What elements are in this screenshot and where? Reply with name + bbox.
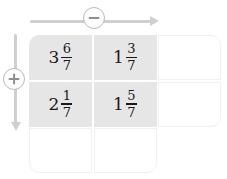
mixed-number-r0c1: 1 3 7 [113,42,137,72]
table-cell-r1c1[interactable]: 1 5 7 [94,82,157,127]
fraction-part: 1 7 [61,89,72,119]
table-cell-r1c0[interactable]: 2 1 7 [29,82,92,127]
mixed-number-r1c1: 1 5 7 [113,89,137,119]
table-cell-r2c0[interactable] [29,128,92,173]
fraction-part: 5 7 [126,89,137,119]
denominator: 7 [62,106,72,120]
table-cell-r1c2[interactable] [158,82,221,127]
whole-part: 2 [49,96,60,113]
vertical-arrowhead-icon [11,122,21,131]
numerator: 3 [126,42,136,56]
denominator: 7 [126,106,136,120]
whole-part: 1 [113,49,124,66]
table-cell-r0c2[interactable] [158,35,221,80]
circled-plus-icon[interactable] [3,68,25,90]
mixed-number-r0c0: 3 6 7 [49,42,73,72]
table-cell-r0c0[interactable]: 3 6 7 [29,35,92,80]
fraction-part: 3 7 [126,42,137,72]
circled-minus-icon[interactable] [83,7,105,29]
horizontal-arrowhead-icon [150,16,159,26]
fraction-grid-widget: 3 6 7 1 3 7 2 [0,0,227,179]
plus-stroke-vertical [13,74,15,85]
minus-stroke [89,17,100,19]
numerator: 1 [62,89,72,103]
whole-part: 1 [113,96,124,113]
numerator: 5 [126,89,136,103]
mixed-number-r1c0: 2 1 7 [49,89,73,119]
table-cell-r0c1[interactable]: 1 3 7 [94,35,157,80]
table-cell-r2c2 [158,128,221,173]
fraction-table: 3 6 7 1 3 7 2 [29,35,219,173]
denominator: 7 [126,59,136,73]
denominator: 7 [62,59,72,73]
numerator: 6 [62,42,72,56]
fraction-part: 6 7 [61,42,72,72]
whole-part: 3 [49,49,60,66]
table-cell-r2c1[interactable] [94,128,157,173]
